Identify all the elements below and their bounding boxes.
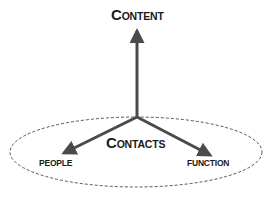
content-label-initial: C (111, 6, 122, 23)
contacts-label-rest: ONTACTS (117, 138, 166, 150)
function-label: FUNCTION (187, 158, 229, 168)
contacts-label-initial: C (106, 134, 117, 151)
contacts-label: CONTACTS (106, 134, 165, 152)
content-label: CONTENT (111, 6, 164, 24)
people-label: PEOPLE (39, 158, 72, 168)
diagram-canvas (0, 0, 274, 198)
content-label-rest: ONTENT (122, 10, 164, 22)
contacts-ellipse (10, 117, 262, 187)
